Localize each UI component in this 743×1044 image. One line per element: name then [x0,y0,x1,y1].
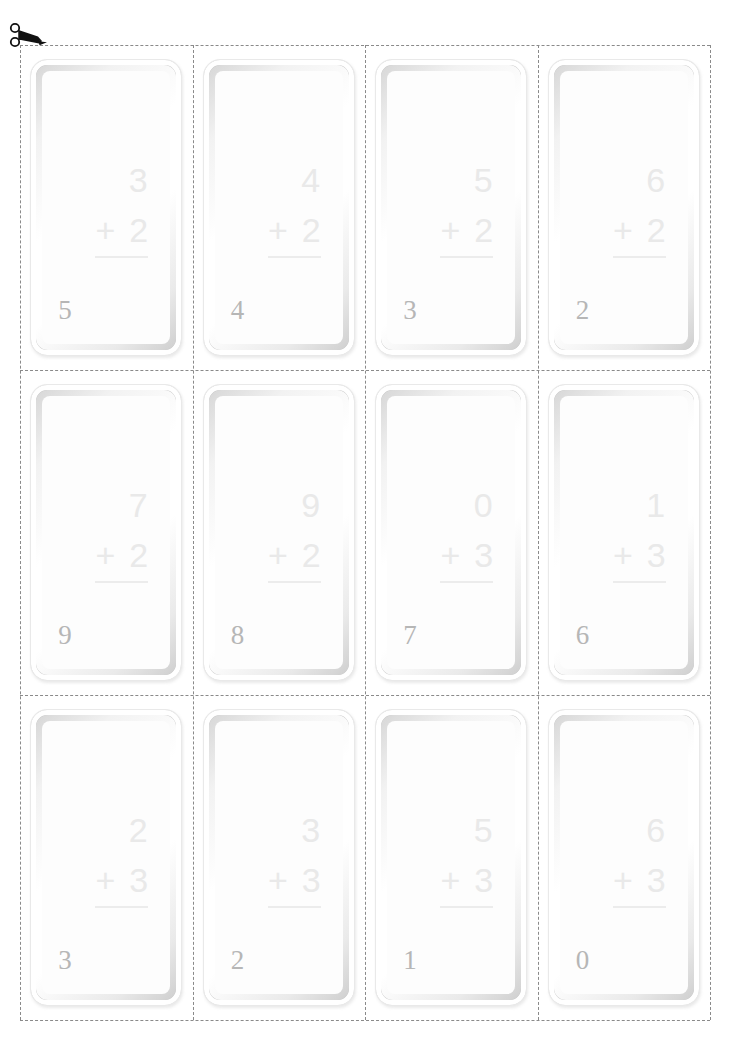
flashcard[interactable]: 3 +2 5 [30,59,182,356]
corner-number: 4 [231,297,245,324]
flashcard[interactable]: 4 +2 4 [203,59,355,356]
flashcard-cell: 3 +3 2 [193,695,366,1020]
addend-row: +3 [268,863,321,908]
addend-top: 6 [613,163,666,197]
addend-bottom: 2 [302,211,321,249]
addend-row: +2 [268,213,321,258]
addend-top: 3 [95,163,148,197]
flashcard[interactable]: 5 +2 3 [375,59,527,356]
addend-row: +2 [268,538,321,583]
addend-top: 2 [95,813,148,847]
operator: + [613,536,633,574]
operator: + [440,536,460,574]
flashcard[interactable]: 2 +3 3 [30,709,182,1006]
addition-problem: 1 +3 [613,488,666,583]
operator: + [95,861,115,899]
addition-problem: 6 +2 [613,163,666,258]
addend-bottom: 2 [474,211,493,249]
addition-problem: 3 +2 [95,163,148,258]
operator: + [613,861,633,899]
flashcard-cell: 5 +2 3 [365,45,538,370]
addend-top: 1 [613,488,666,522]
flashcard-cell: 0 +3 7 [365,370,538,695]
corner-number: 0 [576,947,590,974]
addend-top: 3 [268,813,321,847]
operator: + [268,861,288,899]
flashcard-cell: 4 +2 4 [193,45,366,370]
flashcard-cell: 3 +2 5 [20,45,193,370]
flashcard[interactable]: 6 +3 0 [548,709,700,1006]
addend-bottom: 3 [474,861,493,899]
corner-number: 5 [58,297,72,324]
addend-top: 6 [613,813,666,847]
addition-problem: 6 +3 [613,813,666,908]
flashcard[interactable]: 9 +2 8 [203,384,355,681]
addend-row: +3 [440,538,493,583]
operator: + [95,211,115,249]
addend-top: 5 [440,813,493,847]
operator: + [440,861,460,899]
addend-top: 7 [95,488,148,522]
corner-number: 2 [231,947,245,974]
flashcard-cell: 9 +2 8 [193,370,366,695]
addend-top: 0 [440,488,493,522]
flashcard-cell: 7 +2 9 [20,370,193,695]
flashcard[interactable]: 3 +3 2 [203,709,355,1006]
addend-bottom: 2 [129,211,148,249]
flashcard[interactable]: 5 +3 1 [375,709,527,1006]
addition-problem: 5 +2 [440,163,493,258]
addition-problem: 2 +3 [95,813,148,908]
operator: + [440,211,460,249]
addend-row: +3 [613,863,666,908]
addition-problem: 7 +2 [95,488,148,583]
operator: + [268,211,288,249]
addition-problem: 0 +3 [440,488,493,583]
addend-bottom: 3 [647,536,666,574]
flashcard-cell: 6 +2 2 [538,45,711,370]
addend-top: 4 [268,163,321,197]
addend-bottom: 3 [474,536,493,574]
operator: + [613,211,633,249]
addend-top: 5 [440,163,493,197]
addend-row: +2 [440,213,493,258]
corner-number: 9 [58,622,72,649]
addition-problem: 4 +2 [268,163,321,258]
cut-line-vertical-right [710,45,711,1020]
flashcard-grid: 3 +2 5 4 +2 4 [20,45,710,1020]
corner-number: 6 [576,622,590,649]
addend-row: +3 [440,863,493,908]
addend-row: +3 [613,538,666,583]
addend-bottom: 2 [302,536,321,574]
addend-row: +3 [95,863,148,908]
addition-problem: 9 +2 [268,488,321,583]
flashcard[interactable]: 6 +2 2 [548,59,700,356]
addition-problem: 5 +3 [440,813,493,908]
flashcard-sheet-page: 3 +2 5 4 +2 4 [0,0,743,1044]
addend-row: +2 [95,538,148,583]
corner-number: 1 [403,947,417,974]
corner-number: 3 [403,297,417,324]
operator: + [268,536,288,574]
addend-bottom: 2 [647,211,666,249]
addend-row: +2 [613,213,666,258]
addend-bottom: 2 [129,536,148,574]
flashcard[interactable]: 7 +2 9 [30,384,182,681]
flashcard-cell: 1 +3 6 [538,370,711,695]
flashcard-cell: 2 +3 3 [20,695,193,1020]
addition-problem: 3 +3 [268,813,321,908]
flashcard-cell: 6 +3 0 [538,695,711,1020]
flashcard[interactable]: 0 +3 7 [375,384,527,681]
addend-bottom: 3 [302,861,321,899]
flashcard-cell: 5 +3 1 [365,695,538,1020]
corner-number: 2 [576,297,590,324]
flashcard[interactable]: 1 +3 6 [548,384,700,681]
corner-number: 8 [231,622,245,649]
addend-top: 9 [268,488,321,522]
cut-line-horizontal-bottom [20,1020,710,1021]
corner-number: 7 [403,622,417,649]
addend-row: +2 [95,213,148,258]
corner-number: 3 [58,947,72,974]
operator: + [95,536,115,574]
addend-bottom: 3 [647,861,666,899]
addend-bottom: 3 [129,861,148,899]
